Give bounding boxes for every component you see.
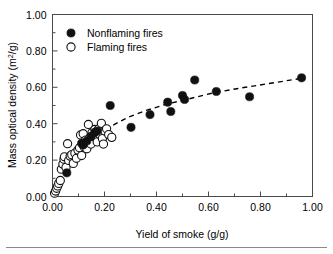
data-point [127,123,135,131]
data-point [245,93,253,101]
y-axis-title: Mass optical density (m2/g) [6,42,19,168]
x-axis-title: Yield of smoke (g/g) [136,228,229,240]
data-point [167,107,175,115]
x-tick-label-4: 0.80 [250,201,271,213]
data-point [146,111,154,119]
y-axis-title-tail: /g) [6,42,18,54]
y-axis-title-base: Mass optical density (m [6,58,18,168]
data-point [106,101,114,109]
legend-label-flaming: Flaming fires [87,41,147,53]
y-axis-tick-labels: 0.000.200.400.600.801.00 [26,9,47,203]
data-point [191,76,199,84]
x-tick-label-1: 0.20 [94,201,115,213]
legend-label-nonflaming: Nonflaming fires [87,27,163,39]
chart-legend: Nonflaming fires Flaming fires [67,27,163,53]
data-point [164,98,172,106]
y-tick-label-0: 0.00 [26,191,47,203]
y-tick-label-4: 0.80 [26,45,47,57]
scatter-chart: 0.000.200.400.600.801.00 0.000.200.400.6… [0,0,333,254]
data-point [180,95,188,103]
data-point [56,176,64,184]
y-tick-label-5: 1.00 [26,9,47,21]
y-tick-label-2: 0.40 [26,118,47,130]
data-point [93,127,101,135]
y-tick-label-1: 0.20 [26,154,47,166]
x-tick-label-2: 0.40 [146,201,167,213]
x-axis-ticks [53,192,313,197]
data-point [297,74,305,82]
legend-marker-flaming-open-circle-icon [67,43,75,51]
data-point [63,169,71,177]
data-point [63,140,71,148]
x-axis-tick-labels: 0.000.200.400.600.801.00 [42,201,323,213]
x-tick-label-5: 1.00 [302,201,323,213]
data-point [108,133,116,141]
legend-marker-nonflaming-filled-circle-icon [67,29,75,37]
data-point [99,140,107,148]
series-flaming-fires-points [50,119,115,197]
x-tick-label-3: 0.60 [198,201,219,213]
data-point [212,87,220,95]
figure-container: 0.000.200.400.600.801.00 0.000.200.400.6… [0,0,333,254]
y-tick-label-3: 0.60 [26,81,47,93]
